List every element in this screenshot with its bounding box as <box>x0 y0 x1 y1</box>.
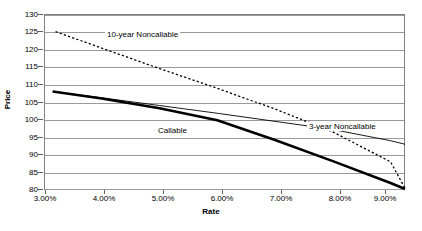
x-tick-label: 9.00% <box>374 194 397 203</box>
gridline-105 <box>45 103 404 104</box>
y-tick-label: 95 <box>29 134 38 142</box>
gridline-130 <box>45 15 404 16</box>
gridline-95 <box>45 138 404 139</box>
x-tick-mark <box>222 190 223 194</box>
x-tick-label: 5.00% <box>152 194 175 203</box>
y-axis-title: Price <box>3 80 12 120</box>
series-annotation-callable: Callable <box>156 126 189 135</box>
y-tick-label: 125 <box>25 28 38 36</box>
y-tick-label: 115 <box>25 63 38 71</box>
x-tick-label: 8.00% <box>329 194 352 203</box>
y-tick-mark <box>38 66 43 67</box>
y-tick-label: 105 <box>25 99 38 107</box>
x-tick-mark <box>385 190 386 194</box>
gridline-115 <box>45 67 404 68</box>
price-vs-rate-chart: 130 125 120 115 110 105 100 95 90 85 80 … <box>0 0 422 231</box>
x-tick-label: 7.00% <box>270 194 293 203</box>
y-tick-label: 100 <box>25 116 38 124</box>
gridline-120 <box>45 50 404 51</box>
gridline-125 <box>45 32 404 33</box>
x-axis-title: Rate <box>0 207 422 216</box>
y-tick-mark <box>38 172 43 173</box>
gridline-85 <box>45 173 404 174</box>
y-tick-label: 90 <box>29 151 38 159</box>
gridline-80 <box>45 189 404 190</box>
x-tick-label: 3.00% <box>34 194 57 203</box>
y-tick-label: 130 <box>25 11 38 19</box>
y-tick-mark <box>38 154 43 155</box>
x-tick-mark <box>281 190 282 194</box>
y-tick-mark <box>38 49 43 50</box>
y-tick-mark <box>38 14 43 15</box>
y-tick-label: 110 <box>25 81 38 89</box>
y-tick-label: 120 <box>25 46 38 54</box>
y-tick-mark <box>38 31 43 32</box>
y-tick-mark <box>38 84 43 85</box>
x-tick-label: 4.00% <box>93 194 116 203</box>
y-tick-mark <box>38 137 43 138</box>
y-tick-mark <box>38 119 43 120</box>
plot-area <box>44 14 405 190</box>
x-tick-mark <box>45 190 46 194</box>
gridline-90 <box>45 155 404 156</box>
gridline-100 <box>45 120 404 121</box>
y-tick-mark <box>38 189 43 190</box>
y-tick-label: 80 <box>29 186 38 194</box>
x-tick-label: 6.00% <box>211 194 234 203</box>
series-annotation-3-year-noncallable: 3-year Noncallable <box>307 122 378 131</box>
y-tick-mark <box>38 102 43 103</box>
series-annotation-10-year-noncallable: 10-year Noncallable <box>105 30 180 39</box>
x-tick-mark <box>163 190 164 194</box>
x-tick-mark <box>104 190 105 194</box>
x-tick-mark <box>340 190 341 194</box>
y-tick-label: 85 <box>29 169 38 177</box>
gridline-110 <box>45 85 404 86</box>
